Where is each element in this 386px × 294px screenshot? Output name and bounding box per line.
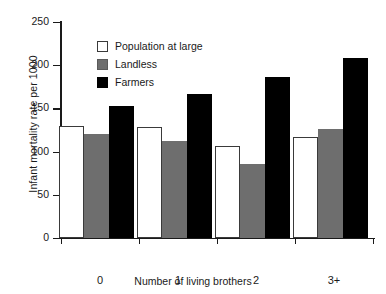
chart-legend: Population at largeLandlessFarmers [97, 38, 203, 92]
legend-swatch-icon [97, 59, 108, 70]
legend-label: Population at large [115, 40, 203, 52]
bar-chart: Infant mortality rate per 1000 050100150… [0, 0, 386, 294]
legend-label: Landless [115, 58, 157, 70]
bar-2-population-at-large [215, 146, 240, 238]
legend-item-population-at-large: Population at large [97, 38, 203, 54]
bar-3plus-farmers [343, 58, 368, 238]
legend-swatch-icon [97, 41, 108, 52]
legend-item-landless: Landless [97, 56, 203, 72]
bar-1-farmers [187, 94, 212, 238]
bar-2-farmers [265, 77, 290, 238]
legend-label: Farmers [115, 76, 154, 88]
y-axis-tick: 0 [53, 238, 61, 239]
x-axis-tick [373, 238, 374, 244]
legend-swatch-icon [97, 77, 108, 88]
x-axis-tick [217, 238, 218, 244]
y-axis-tick: 200 [53, 65, 61, 66]
y-axis-tick-label: 0 [43, 231, 49, 243]
bar-1-population-at-large [137, 127, 162, 238]
x-axis-tick [61, 238, 62, 244]
y-axis-tick-label: 100 [31, 145, 49, 157]
x-axis-tick [295, 238, 296, 244]
bar-0-farmers [109, 106, 134, 238]
y-axis-tick-label: 150 [31, 101, 49, 113]
x-axis-title: Number of living brothers [0, 275, 386, 287]
bar-0-population-at-large [59, 126, 84, 238]
y-axis-tick-label: 50 [37, 188, 49, 200]
y-axis-tick-label: 200 [31, 58, 49, 70]
legend-item-farmers: Farmers [97, 74, 203, 90]
bar-3plus-population-at-large [293, 137, 318, 238]
bar-0-landless [84, 134, 109, 238]
bar-3plus-landless [318, 129, 343, 238]
y-axis-tick: 150 [53, 108, 61, 109]
x-axis-tick [139, 238, 140, 244]
y-axis-tick: 250 [53, 22, 61, 23]
bar-2-landless [240, 164, 265, 238]
bar-1-landless [162, 141, 187, 238]
y-axis-tick-label: 250 [31, 15, 49, 27]
